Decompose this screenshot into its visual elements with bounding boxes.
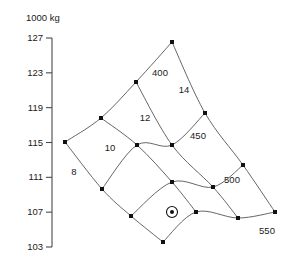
mesh-node — [211, 185, 215, 189]
y-axis: 127123119115111107103 — [27, 32, 52, 252]
mesh-node — [135, 143, 139, 147]
axis-unit-title: 1000 kg — [26, 12, 60, 23]
curve-labels: 8101214400450500550 — [71, 67, 275, 236]
mesh-node — [63, 140, 67, 144]
curve-label-500: 500 — [224, 174, 240, 185]
mesh-node — [241, 163, 245, 167]
operating-point-marker[interactable] — [167, 207, 178, 218]
mesh-node — [134, 80, 138, 84]
curve-label-12: 12 — [140, 112, 151, 123]
mesh-node — [99, 116, 103, 120]
mesh-node — [129, 214, 133, 218]
curve-label-400: 400 — [152, 67, 168, 78]
mesh-curve-14 — [172, 42, 275, 212]
curve-label-550: 550 — [259, 225, 275, 236]
curve-label-14: 14 — [179, 84, 190, 95]
y-axis-tick-label: 127 — [27, 32, 43, 43]
y-axis-tick-label: 107 — [27, 206, 43, 217]
curve-label-450: 450 — [190, 130, 206, 141]
mesh-node — [100, 187, 104, 191]
curve-label-10: 10 — [105, 142, 116, 153]
mesh-curve-8 — [65, 142, 163, 242]
mesh-node — [203, 111, 207, 115]
curve-label-8: 8 — [71, 166, 76, 177]
y-axis-tick-label: 123 — [27, 67, 43, 78]
chart-canvas: 127123119115111107103 810121440045050055… — [0, 0, 293, 269]
y-axis-tick-label: 103 — [27, 241, 43, 252]
y-axis-tick-label: 111 — [29, 171, 43, 182]
mesh-curve-400 — [65, 42, 172, 142]
mesh-node — [161, 240, 165, 244]
mesh-curve-450 — [102, 113, 205, 189]
nomogram-chart: 127123119115111107103 810121440045050055… — [0, 0, 293, 269]
y-axis-tick-label: 119 — [28, 102, 43, 113]
mesh-node — [236, 216, 240, 220]
mesh-node — [194, 210, 198, 214]
mesh-node — [170, 143, 174, 147]
mesh-curve-12 — [136, 82, 238, 218]
mesh-node — [273, 210, 277, 214]
mesh-node — [170, 40, 174, 44]
mesh-node — [170, 180, 174, 184]
operating-point-dot[interactable] — [170, 210, 174, 214]
y-axis-tick-label: 115 — [28, 137, 43, 148]
mesh-curve-10 — [101, 118, 196, 212]
